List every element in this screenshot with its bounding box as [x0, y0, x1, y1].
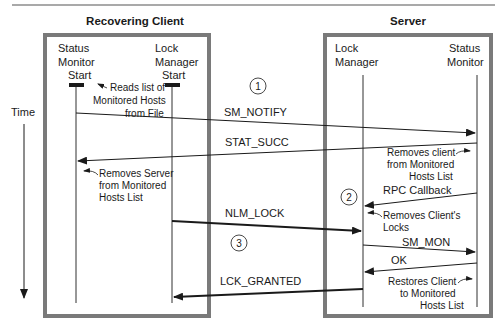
svg-text:Removes Server: Removes Server [99, 168, 174, 179]
client-title: Recovering Client [86, 15, 184, 27]
svg-text:to Monitored: to Monitored [400, 288, 456, 299]
server-lock-manager-label-2: Manager [335, 56, 379, 68]
svg-text:Removes client: Removes client [387, 147, 456, 158]
svg-text:from Monitored: from Monitored [387, 159, 454, 170]
message-ok: OK [365, 254, 477, 272]
svg-text:Locks: Locks [383, 222, 409, 233]
svg-text:STAT_SUCC: STAT_SUCC [225, 136, 289, 148]
svg-text:from Monitored: from Monitored [99, 180, 166, 191]
client-lock-manager-label-3: Start [162, 69, 185, 81]
step-3-marker: 3 [231, 235, 247, 251]
svg-text:Reads list of: Reads list of [110, 82, 165, 93]
client-lock-manager-label-1: Lock [155, 42, 179, 54]
server-status-monitor-label-2: Monitor [447, 56, 484, 68]
client-status-monitor-label-1: Status [58, 42, 90, 54]
svg-text:Restores Client: Restores Client [388, 276, 457, 287]
note-removes-client: Removes client from Monitored Hosts List [387, 147, 470, 182]
message-sm-mon: SM_MON [363, 236, 475, 252]
svg-text:SM_MON: SM_MON [402, 236, 450, 248]
message-lck-granted: LCK_GRANTED [174, 275, 363, 297]
sequence-diagram: Recovering Client Server Status Monitor … [0, 0, 501, 326]
svg-text:1: 1 [255, 81, 261, 92]
message-nlm-lock: NLM_LOCK [172, 207, 361, 231]
client-status-monitor-label-2: Monitor [58, 56, 95, 68]
server-box [325, 35, 491, 316]
svg-text:Hosts List: Hosts List [99, 192, 143, 203]
svg-text:3: 3 [236, 238, 242, 249]
svg-text:OK: OK [391, 254, 408, 266]
svg-text:Hosts List: Hosts List [420, 300, 464, 311]
svg-text:LCK_GRANTED: LCK_GRANTED [220, 275, 301, 287]
client-lock-manager-label-2: Manager [155, 56, 199, 68]
note-removes-locks: Removes Client's Locks [368, 210, 461, 233]
server-status-monitor-label-1: Status [449, 42, 481, 54]
svg-text:RPC Callback: RPC Callback [383, 184, 452, 196]
server-lock-manager-label-1: Lock [335, 42, 359, 54]
svg-text:NLM_LOCK: NLM_LOCK [225, 207, 285, 219]
svg-text:Removes Client's: Removes Client's [383, 210, 461, 221]
svg-text:Hosts List: Hosts List [409, 171, 453, 182]
message-rpc-callback: RPC Callback [365, 184, 477, 206]
client-status-monitor-start-bar [69, 83, 84, 87]
client-lock-manager-start-bar [165, 83, 180, 87]
time-label: Time [11, 106, 35, 118]
note-restores-client: Restores Client to Monitored Hosts List [388, 276, 472, 311]
svg-text:Monitored Hosts: Monitored Hosts [93, 95, 166, 106]
svg-text:2: 2 [346, 192, 352, 203]
note-removes-server: Removes Server from Monitored Hosts List [84, 168, 174, 203]
svg-text:SM_NOTIFY: SM_NOTIFY [224, 106, 288, 118]
step-1-marker: 1 [250, 78, 266, 94]
client-status-monitor-label-3: Start [68, 69, 91, 81]
note-reads-list: Reads list of Monitored Hosts from File [93, 82, 166, 119]
step-2-marker: 2 [341, 189, 357, 205]
server-title: Server [390, 15, 426, 27]
